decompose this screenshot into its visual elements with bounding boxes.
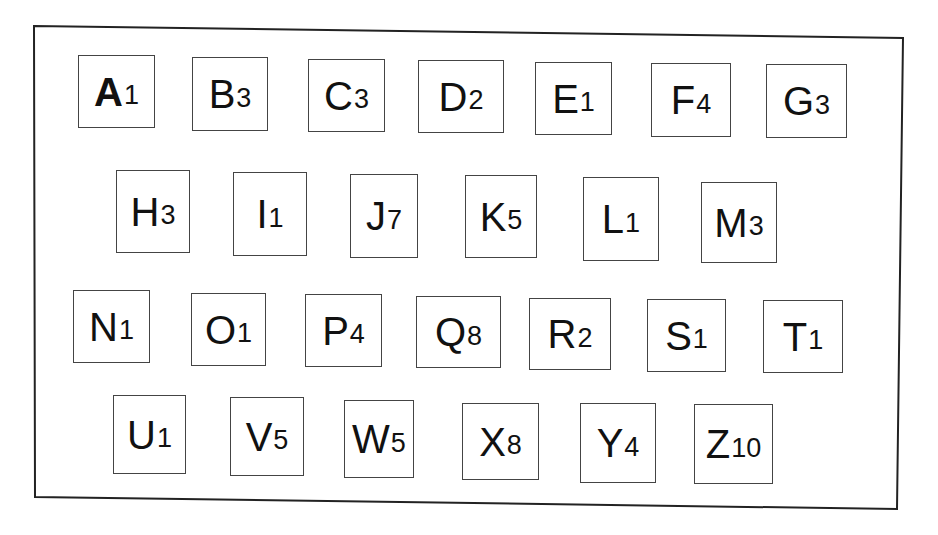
tile-value: 1 <box>124 82 139 109</box>
tile-value: 1 <box>119 317 134 344</box>
tile-value: 1 <box>269 205 284 232</box>
tile-x[interactable]: X8 <box>462 403 539 480</box>
tile-value: 1 <box>693 326 708 353</box>
tile-letter: F <box>671 80 695 120</box>
tile-letter: H <box>131 192 160 232</box>
tile-letter: G <box>783 81 814 121</box>
tile-value: 1 <box>808 327 823 354</box>
tile-p[interactable]: P4 <box>305 294 382 367</box>
tile-letter: N <box>89 307 118 347</box>
tile-d[interactable]: D2 <box>418 60 504 133</box>
tile-value: 2 <box>577 325 592 352</box>
tile-j[interactable]: J7 <box>350 174 418 258</box>
tile-value: 8 <box>467 323 482 350</box>
tile-letter: Y <box>597 423 624 463</box>
tile-t[interactable]: T1 <box>763 300 843 373</box>
tile-value: 8 <box>507 432 522 459</box>
tile-letter: L <box>602 199 624 239</box>
tile-z[interactable]: Z10 <box>694 404 773 484</box>
tile-letter: Z <box>706 424 730 464</box>
tile-value: 1 <box>625 210 640 237</box>
tile-s[interactable]: S1 <box>647 299 726 372</box>
tile-letter: J <box>366 196 386 236</box>
tile-value: 4 <box>624 434 639 461</box>
tile-value: 2 <box>468 87 483 114</box>
tile-l[interactable]: L1 <box>583 177 659 261</box>
tile-y[interactable]: Y4 <box>580 403 656 483</box>
tile-value: 3 <box>749 213 764 240</box>
tile-h[interactable]: H3 <box>116 170 190 253</box>
tile-u[interactable]: U1 <box>113 395 186 474</box>
tile-letter: I <box>256 194 267 234</box>
tile-letter: E <box>552 79 579 119</box>
tile-value: 1 <box>580 89 595 116</box>
tile-letter: B <box>209 74 236 114</box>
tile-q[interactable]: Q8 <box>416 296 501 368</box>
tile-value: 5 <box>507 207 522 234</box>
tile-value: 3 <box>236 85 251 112</box>
tile-b[interactable]: B3 <box>192 57 268 131</box>
tile-letter: P <box>322 311 349 351</box>
tile-letter: Q <box>435 312 466 352</box>
tile-i[interactable]: I1 <box>233 172 307 256</box>
tile-letter: A <box>94 72 123 112</box>
tile-value: 4 <box>696 91 711 118</box>
tile-value: 4 <box>350 321 365 348</box>
tile-a[interactable]: A1 <box>78 55 155 128</box>
tile-o[interactable]: O1 <box>191 293 266 366</box>
tile-letter: R <box>548 314 577 354</box>
tile-e[interactable]: E1 <box>535 62 612 135</box>
tile-m[interactable]: M3 <box>701 182 777 263</box>
tile-value: 1 <box>237 320 252 347</box>
tile-letter: O <box>205 310 236 350</box>
tile-letter: M <box>714 203 747 243</box>
tile-c[interactable]: C3 <box>308 59 385 132</box>
tile-value: 7 <box>387 207 402 234</box>
tile-letter: D <box>439 77 468 117</box>
tile-letter: X <box>479 422 506 462</box>
tile-value: 10 <box>731 435 761 462</box>
tile-letter: S <box>665 316 692 356</box>
tile-g[interactable]: G3 <box>766 64 847 138</box>
tile-v[interactable]: V5 <box>230 397 304 476</box>
tile-k[interactable]: K5 <box>465 175 537 258</box>
tile-letter: K <box>480 197 507 237</box>
tile-value: 5 <box>273 427 288 454</box>
tile-letter: W <box>352 419 390 459</box>
tile-letter: T <box>783 317 807 357</box>
tile-letter: U <box>127 415 156 455</box>
tile-letter: V <box>246 417 273 457</box>
tile-value: 1 <box>157 425 172 452</box>
tile-w[interactable]: W5 <box>344 400 414 478</box>
tile-value: 3 <box>160 202 175 229</box>
tile-n[interactable]: N1 <box>73 290 150 363</box>
tile-f[interactable]: F4 <box>651 63 731 137</box>
tile-value: 3 <box>354 86 369 113</box>
tile-letter: C <box>324 76 353 116</box>
tile-value: 5 <box>391 430 406 457</box>
tile-r[interactable]: R2 <box>529 298 611 370</box>
tile-value: 3 <box>815 92 830 119</box>
